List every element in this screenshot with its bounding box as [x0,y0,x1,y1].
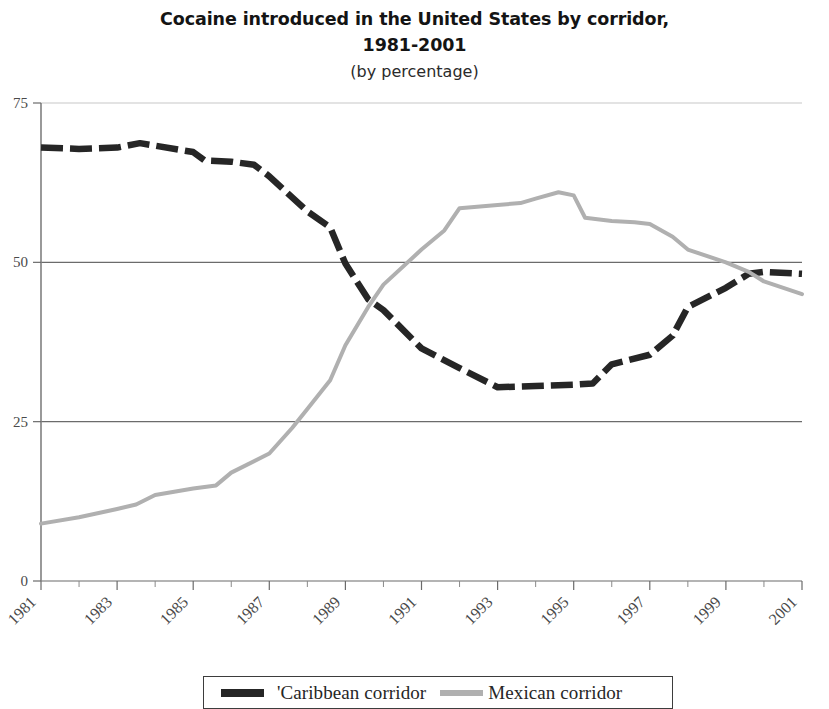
y-tick-label-25: 25 [13,414,28,430]
legend-swatch-caribbean-icon [221,689,264,697]
legend-entry-mexican: Mexican corridor [440,677,622,708]
x-tick-label-1981: 1981 [4,593,39,628]
x-tick-label-2001: 2001 [765,593,800,628]
y-tick-label-0: 0 [21,573,29,589]
y-tick-labels-group: 0255075 [13,95,28,589]
x-tick-label-1989: 1989 [309,593,344,628]
series-line-mexican-corridor [41,192,802,523]
x-tick-labels-group: 1981198319851987198919911993199519971999… [4,593,800,628]
data-series-group [41,143,802,523]
gridlines-group [41,103,802,581]
chart-plot-area: 0255075 19811983198519871989199119931995… [0,0,829,709]
x-tick-label-1999: 1999 [689,593,724,628]
chart-legend: ' Caribbean corridor Mexican corridor [203,676,673,709]
legend-swatch-mexican-icon [440,690,483,696]
x-tick-label-1993: 1993 [461,593,496,628]
y-tick-label-75: 75 [13,95,28,111]
x-tick-label-1985: 1985 [157,593,192,628]
legend-label-mexican: Mexican corridor [488,682,622,704]
chart-figure: Cocaine introduced in the United States … [0,0,829,709]
x-tick-label-1995: 1995 [537,593,572,628]
x-tick-label-1987: 1987 [233,593,268,628]
legend-label-caribbean: Caribbean corridor [280,682,426,704]
y-tick-label-50: 50 [13,254,28,270]
legend-entry-caribbean: ' Caribbean corridor [221,677,426,708]
x-tick-label-1983: 1983 [81,593,116,628]
x-tick-label-1997: 1997 [613,593,648,628]
x-tick-label-1991: 1991 [385,593,420,628]
axis-lines-group [33,103,41,581]
series-line-caribbean-corridor [41,143,802,387]
